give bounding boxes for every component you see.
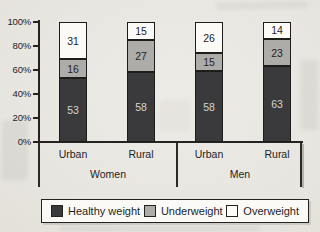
- segment-value-label: 58: [203, 101, 215, 113]
- segment-healthy-weight: 53: [59, 78, 87, 142]
- legend-label: Overweight: [243, 205, 299, 217]
- legend-item-underweight: Underweight: [144, 205, 223, 217]
- segment-value-label: 63: [271, 98, 283, 110]
- scanned-chart-page: 100%80%60%40%20%0% 311653152758261558142…: [0, 0, 320, 232]
- legend-swatch-icon: [51, 205, 63, 217]
- legend-label: Healthy weight: [68, 205, 140, 217]
- legend: Healthy weightUnderweightOverweight: [41, 199, 309, 223]
- bar-rural-1: 152758: [127, 22, 155, 142]
- group-separator-left: [38, 143, 40, 187]
- segment-value-label: 31: [67, 35, 79, 47]
- segment-underweight: 15: [195, 53, 223, 71]
- segment-overweight: 26: [195, 22, 223, 53]
- segment-underweight: 16: [59, 59, 87, 78]
- scan-bleed-artifact: [300, 60, 318, 130]
- bar-urban-0: 311653: [59, 22, 87, 142]
- y-axis-tick-label: 100%: [0, 17, 31, 27]
- segment-value-label: 58: [135, 101, 147, 113]
- segment-value-label: 23: [271, 47, 283, 59]
- legend-item-healthy-weight: Healthy weight: [51, 205, 140, 217]
- y-axis-tick: [33, 45, 39, 47]
- bar-urban-2: 261558: [195, 22, 223, 142]
- segment-overweight: 14: [263, 22, 291, 39]
- scan-bleed-artifact: [160, 100, 190, 130]
- legend-item-overweight: Overweight: [226, 205, 299, 217]
- scan-bleed-artifact: [2, 120, 28, 180]
- x-category-label: Rural: [247, 148, 307, 160]
- segment-value-label: 53: [67, 104, 79, 116]
- bar-rural-3: 142363: [263, 22, 291, 142]
- group-separator-right: [300, 143, 302, 187]
- segment-underweight: 23: [263, 39, 291, 67]
- x-category-label: Rural: [111, 148, 171, 160]
- segment-overweight: 15: [127, 22, 155, 40]
- segment-value-label: 27: [135, 50, 147, 62]
- x-category-label: Urban: [179, 148, 239, 160]
- scan-bleed-artifact: [60, 226, 260, 231]
- legend-label: Underweight: [161, 205, 223, 217]
- x-category-label: Urban: [43, 148, 103, 160]
- y-axis-tick-label: 40%: [0, 89, 31, 99]
- segment-healthy-weight: 58: [127, 72, 155, 142]
- segment-underweight: 27: [127, 40, 155, 72]
- segment-overweight: 31: [59, 22, 87, 59]
- segment-value-label: 16: [67, 63, 79, 75]
- segment-value-label: 14: [271, 24, 283, 36]
- segment-value-label: 15: [203, 56, 215, 68]
- y-axis-tick-label: 20%: [0, 113, 31, 123]
- segment-value-label: 15: [135, 25, 147, 37]
- y-axis-tick-label: 80%: [0, 41, 31, 51]
- group-separator-middle: [176, 143, 178, 187]
- segment-healthy-weight: 63: [263, 66, 291, 142]
- legend-swatch-icon: [226, 205, 238, 217]
- segment-value-label: 26: [203, 32, 215, 44]
- segment-healthy-weight: 58: [195, 71, 223, 142]
- y-axis-tick: [33, 69, 39, 71]
- y-axis-tick-label: 0%: [0, 137, 31, 147]
- y-axis-tick: [33, 93, 39, 95]
- scan-bleed-artifact: [216, 1, 308, 10]
- group-label-men: Men: [200, 168, 280, 180]
- y-axis-tick: [33, 21, 39, 23]
- group-label-women: Women: [68, 168, 148, 180]
- y-axis-tick-label: 60%: [0, 65, 31, 75]
- y-axis-tick: [33, 117, 39, 119]
- legend-swatch-icon: [144, 205, 156, 217]
